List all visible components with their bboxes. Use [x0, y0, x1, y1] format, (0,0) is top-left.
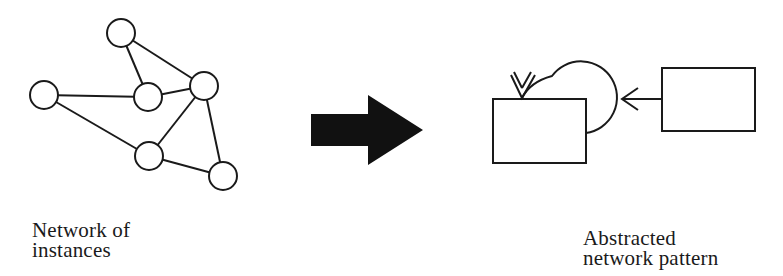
node-right — [190, 72, 218, 100]
right-arrow-icon — [311, 95, 423, 165]
abstracted-network-pattern-caption: Abstracted network pattern — [583, 228, 718, 268]
node-top — [107, 19, 135, 47]
caption-line-1: Abstracted — [583, 228, 718, 248]
network-of-instances-caption: Network of instances — [32, 220, 130, 260]
self-loop-box — [493, 99, 586, 163]
abstracted-network-pattern — [493, 61, 755, 163]
node-left — [30, 81, 58, 109]
edge-left-lower — [44, 95, 149, 156]
caption-line-2: instances — [32, 240, 130, 260]
node-center — [134, 83, 162, 111]
network-of-instances — [30, 19, 237, 190]
edge-left-center — [44, 95, 148, 97]
node-lower — [135, 142, 163, 170]
caption-line-2: network pattern — [583, 248, 718, 268]
node-bottom-right — [209, 162, 237, 190]
network-edges — [44, 33, 223, 176]
caption-line-1: Network of — [32, 220, 130, 240]
source-box — [662, 68, 755, 131]
